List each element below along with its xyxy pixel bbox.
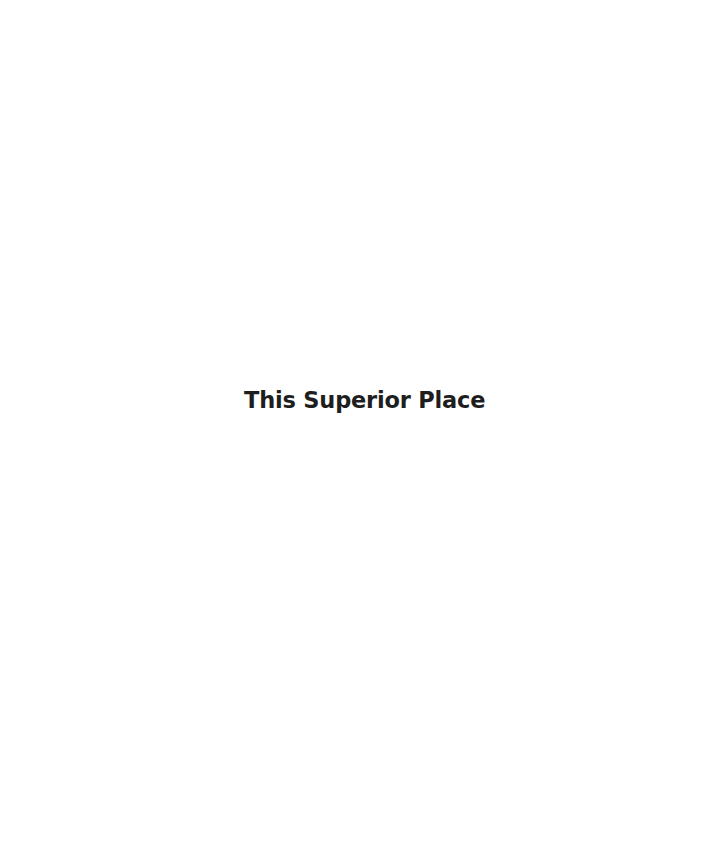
- page-title: This Superior Place: [244, 384, 485, 416]
- document-page: This Superior Place: [0, 0, 722, 862]
